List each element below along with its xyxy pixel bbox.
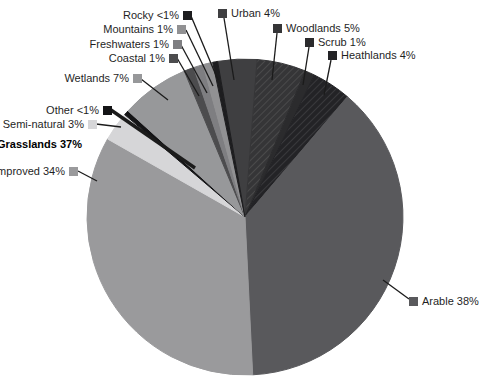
improved-label: Improved 34% bbox=[0, 164, 65, 178]
callout-freshwaters: Freshwaters 1% bbox=[90, 37, 182, 51]
woodlands-label: Woodlands 5% bbox=[286, 21, 360, 35]
freshwaters-swatch bbox=[173, 40, 182, 49]
mountains-label: Mountains 1% bbox=[103, 22, 173, 36]
callout-arable: Arable 38% bbox=[409, 294, 479, 308]
callout-heathlands: Heathlands 4% bbox=[328, 48, 416, 62]
scrub-label: Scrub 1% bbox=[318, 35, 366, 49]
other-swatch bbox=[103, 106, 112, 115]
rocky-swatch bbox=[183, 11, 192, 20]
callout-woodlands: Woodlands 5% bbox=[273, 21, 360, 35]
wetlands-label: Wetlands 7% bbox=[64, 71, 129, 85]
callout-mountains: Mountains 1% bbox=[103, 22, 186, 36]
semi-natural-label: Semi-natural 3% bbox=[3, 117, 84, 131]
heathlands-label: Heathlands 4% bbox=[341, 48, 416, 62]
coastal-label: Coastal 1% bbox=[109, 51, 165, 65]
callout-improved: Improved 34% bbox=[0, 164, 78, 178]
callout-coastal: Coastal 1% bbox=[109, 51, 178, 65]
urban-label: Urban 4% bbox=[231, 6, 280, 20]
callout-semi-natural: Semi-natural 3% bbox=[3, 117, 97, 131]
coastal-swatch bbox=[169, 54, 178, 63]
woodlands-swatch bbox=[273, 24, 282, 33]
callout-scrub: Scrub 1% bbox=[305, 35, 366, 49]
other-label: Other <1% bbox=[46, 103, 99, 117]
callout-other: Other <1% bbox=[46, 103, 112, 117]
semi-natural-swatch bbox=[88, 120, 97, 129]
callout-rocky: Rocky <1% bbox=[123, 8, 192, 22]
rocky-label: Rocky <1% bbox=[123, 8, 179, 22]
arable-label: Arable 38% bbox=[422, 294, 479, 308]
callout-wetlands: Wetlands 7% bbox=[64, 71, 142, 85]
urban-swatch bbox=[218, 9, 227, 18]
scrub-swatch bbox=[305, 38, 314, 47]
freshwaters-label: Freshwaters 1% bbox=[90, 37, 169, 51]
arable-swatch bbox=[409, 297, 418, 306]
grasslands-group-label: Grasslands 37% bbox=[0, 137, 82, 151]
mountains-swatch bbox=[177, 25, 186, 34]
improved-swatch bbox=[69, 167, 78, 176]
heathlands-swatch bbox=[328, 51, 337, 60]
leader-line-arable bbox=[383, 280, 409, 299]
callout-urban: Urban 4% bbox=[218, 6, 280, 20]
wetlands-swatch bbox=[133, 74, 142, 83]
